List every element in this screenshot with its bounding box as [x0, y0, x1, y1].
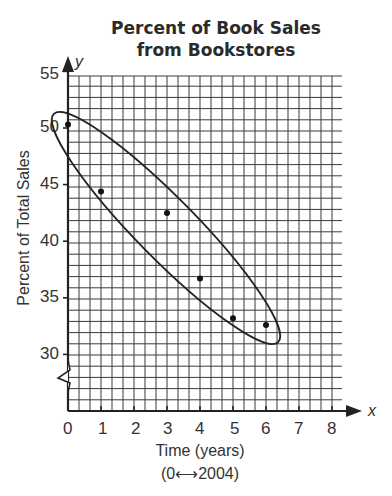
- x-axis-variable: x: [367, 402, 377, 419]
- x-tick-6: 6: [261, 419, 270, 438]
- data-point: [65, 122, 71, 128]
- x-tick-4: 4: [195, 419, 204, 438]
- x-axis-label: Time (years): [155, 442, 244, 459]
- scatter-plot: 55 50 45 40 35 30 0 1 2 3 4 5 6 7 8 y x …: [0, 0, 392, 496]
- ticks: [63, 71, 332, 411]
- grid: [68, 76, 342, 411]
- x-tick-3: 3: [163, 419, 172, 438]
- data-point: [164, 210, 170, 216]
- data-point: [98, 188, 104, 194]
- y-axis-label: Percent of Total Sales: [15, 150, 32, 305]
- y-tick-45: 45: [40, 174, 59, 193]
- x-axis-sublabel: (0⟷2004): [161, 465, 239, 482]
- y-axis-arrow-icon: [62, 56, 74, 72]
- data-point: [197, 276, 203, 282]
- x-tick-0: 0: [63, 419, 72, 438]
- x-tick-8: 8: [327, 419, 336, 438]
- y-axis-variable: y: [74, 53, 84, 70]
- data-point: [263, 322, 269, 328]
- x-tick-5: 5: [230, 419, 239, 438]
- x-tick-2: 2: [131, 419, 140, 438]
- x-tick-1: 1: [98, 419, 107, 438]
- trend-ellipse: [32, 93, 299, 363]
- y-tick-40: 40: [40, 231, 59, 250]
- x-tick-7: 7: [294, 419, 303, 438]
- data-point: [230, 315, 236, 321]
- y-tick-30: 30: [40, 344, 59, 363]
- y-tick-35: 35: [40, 287, 59, 306]
- y-tick-55: 55: [40, 64, 59, 83]
- x-axis-arrow-icon: [346, 405, 362, 417]
